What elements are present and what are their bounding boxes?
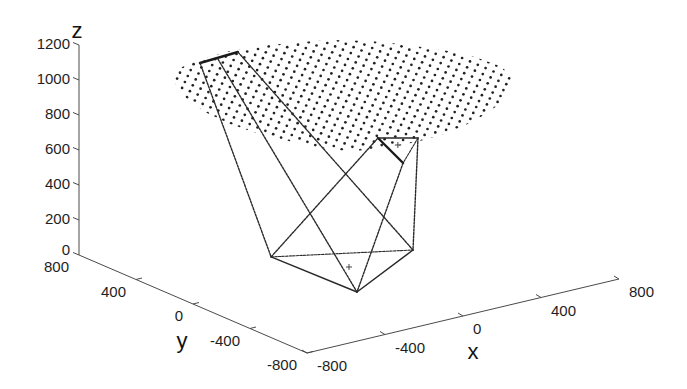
workspace-point	[227, 128, 230, 131]
workspace-point	[378, 71, 381, 74]
y-tick-mark	[136, 278, 142, 280]
workspace-point	[339, 54, 342, 57]
workspace-point	[230, 43, 233, 46]
workspace-point	[457, 84, 460, 87]
workspace-point	[400, 123, 403, 126]
workspace-point	[255, 90, 258, 93]
workspace-point	[310, 113, 313, 116]
axes: 1200 1000 800 600 400 200 0 800 400 0 -4…	[37, 18, 654, 374]
workspace-point	[465, 87, 468, 90]
workspace-point	[322, 69, 325, 72]
workspace-point	[381, 123, 384, 126]
workspace-point	[426, 128, 429, 131]
workspace-point	[312, 129, 315, 132]
workspace-point	[446, 107, 449, 110]
workspace-point	[325, 63, 328, 66]
workspace-point	[221, 82, 224, 85]
workspace-point	[415, 73, 418, 76]
z-tick-mark	[73, 183, 79, 186]
workspace-point	[264, 51, 267, 54]
workspace-point	[263, 93, 266, 96]
workspace-point	[283, 109, 286, 112]
workspace-point	[298, 137, 301, 140]
workspace-point	[295, 143, 298, 146]
workspace-point	[380, 86, 383, 89]
cable-line	[357, 163, 403, 292]
x-tick-label: 0	[473, 320, 481, 337]
workspace-point	[449, 80, 452, 83]
workspace-point	[370, 125, 373, 128]
workspace-point	[292, 91, 295, 94]
workspace-point	[213, 79, 216, 82]
workspace-point	[204, 97, 207, 100]
workspace-point	[235, 131, 238, 134]
workspace-point	[331, 51, 334, 54]
workspace-point	[298, 80, 301, 83]
workspace-point	[467, 102, 470, 105]
workspace-point	[297, 43, 300, 46]
workspace-point	[193, 99, 196, 102]
workspace-point	[222, 119, 225, 122]
z-tick-mark	[73, 148, 79, 151]
workspace-point	[184, 60, 187, 63]
z-tick-label: 400	[45, 175, 70, 192]
workspace-point	[369, 89, 372, 92]
workspace-point	[248, 123, 251, 126]
workspace-point	[453, 111, 456, 114]
workspace-point	[506, 62, 509, 65]
workspace-point	[385, 96, 388, 99]
workspace-point	[470, 96, 473, 99]
workspace-point	[311, 71, 314, 74]
workspace-point	[209, 106, 212, 109]
workspace-point	[321, 90, 324, 93]
workspace-point	[285, 146, 288, 149]
workspace-point	[286, 103, 289, 106]
workspace-point	[448, 123, 451, 126]
workspace-point	[317, 59, 320, 62]
workspace-point	[495, 64, 498, 67]
workspace-point	[410, 121, 413, 124]
z-ticks	[73, 43, 79, 256]
workspace-point	[464, 51, 467, 54]
workspace-point	[252, 38, 255, 41]
workspace-point	[386, 74, 389, 77]
workspace-point	[408, 106, 411, 109]
workspace-point	[406, 33, 409, 36]
workspace-point	[313, 107, 316, 110]
workspace-point	[490, 112, 493, 115]
workspace-point	[439, 62, 442, 65]
workspace-point	[396, 93, 399, 96]
workspace-point	[232, 137, 235, 140]
workspace-point	[177, 114, 180, 117]
workspace-point	[359, 149, 362, 152]
workspace-point	[490, 55, 493, 58]
workspace-point	[392, 42, 395, 45]
workspace-point	[214, 115, 217, 118]
workspace-point	[288, 118, 291, 121]
workspace-point	[432, 37, 435, 40]
workspace-point	[260, 99, 263, 102]
workspace-point	[233, 116, 236, 119]
workspace-point	[416, 109, 419, 112]
workspace-point	[274, 70, 277, 73]
base-line	[357, 250, 413, 292]
workspace-point	[371, 104, 374, 107]
workspace-point	[346, 136, 349, 139]
workspace-point	[402, 139, 405, 142]
workspace-point	[297, 101, 300, 104]
workspace-point	[262, 114, 265, 117]
workspace-point	[368, 131, 371, 134]
workspace-point	[340, 148, 343, 151]
workspace-point	[356, 76, 359, 79]
workspace-point	[403, 39, 406, 42]
workspace-point	[302, 53, 305, 56]
workspace-point	[253, 132, 256, 135]
workspace-point	[238, 125, 241, 128]
workspace-point	[326, 99, 329, 102]
workspace-point	[445, 50, 448, 53]
workspace-point	[164, 101, 167, 104]
workspace-point	[443, 92, 446, 95]
workspace-point	[178, 92, 181, 95]
workspace-point	[226, 92, 229, 95]
workspace-point	[280, 58, 283, 61]
